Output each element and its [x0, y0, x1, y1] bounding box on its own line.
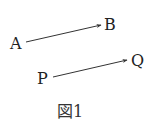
point-label-p: P [37, 69, 48, 88]
figure-canvas: A B P Q 図1 [0, 0, 152, 129]
figure-caption: 図1 [57, 102, 83, 121]
point-label-b: B [104, 15, 116, 34]
vector-pq-arrow [53, 60, 127, 77]
point-label-q: Q [131, 51, 144, 70]
vector-ab-arrow [26, 25, 101, 42]
point-label-a: A [9, 34, 22, 53]
